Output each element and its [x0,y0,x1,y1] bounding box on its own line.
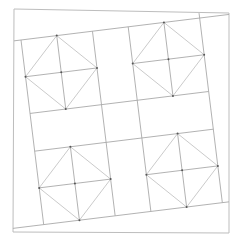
diamond-edge [133,64,173,96]
diamond-vertex [177,133,179,135]
diamond-vertex [203,54,205,56]
diamond-vertex [25,76,27,78]
diamond-vertex [96,67,98,69]
diamond-edge [146,134,177,175]
outer-frame [13,9,229,233]
diamond-vertex [56,35,58,37]
block-center-vertex [167,58,169,60]
diamond-edge [70,147,110,179]
block-center-vertex [181,169,183,171]
diamond-vertex [145,174,147,176]
grid-bottom-line [13,202,229,229]
quilt-diagram [0,0,241,240]
diamond-edge [26,77,66,109]
diamond-edge [178,134,218,166]
diamond-vertex [163,21,165,23]
diamond-vertex [69,146,71,148]
diamond-edge [146,175,186,207]
diamond-edge [39,147,70,188]
diamond-edge [26,36,57,77]
block-top-right [132,21,205,96]
diamond-vertex [38,187,40,189]
diamond-edge [66,68,97,109]
diamond-vertex [186,206,188,208]
diamond-vertex [110,178,112,180]
diamond-vertex [132,63,134,65]
diamond-edge [133,22,164,63]
block-bottom-left [38,146,111,221]
grid-top-line [14,14,229,40]
diamond-edge [187,166,218,207]
grid-row-line [35,129,214,151]
rotated-grid [13,13,229,228]
diamond-blocks [25,21,219,221]
grid-right-line [199,13,222,203]
grid-row-line [30,91,209,113]
block-center-vertex [60,71,62,73]
block-top-left [25,35,98,110]
diamond-edge [173,55,204,96]
block-center-vertex [74,182,76,184]
block-bottom-right [145,133,218,208]
diamond-vertex [217,165,219,167]
diamond-edge [79,179,110,220]
diamond-vertex [78,219,80,221]
diamond-edge [57,36,97,68]
diamond-vertex [172,95,174,97]
diamond-edge [164,22,204,54]
diamond-edge [39,188,79,220]
diamond-vertex [65,108,67,110]
